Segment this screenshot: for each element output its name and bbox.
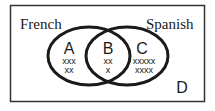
- region-a-label: A: [64, 40, 75, 57]
- region-b-marks-row2: x: [106, 65, 111, 75]
- region-c-marks-row2: xxxx: [135, 65, 154, 75]
- french-set-label: French: [20, 16, 62, 32]
- region-c-label: C: [136, 40, 148, 57]
- region-a-marks-row2: xx: [65, 65, 75, 75]
- region-b-label: B: [103, 40, 114, 57]
- spanish-set-label: Spanish: [146, 16, 194, 32]
- venn-diagram: French Spanish A xxx xx B xx x C xxxxx x…: [0, 0, 215, 111]
- region-d-label: D: [176, 79, 188, 96]
